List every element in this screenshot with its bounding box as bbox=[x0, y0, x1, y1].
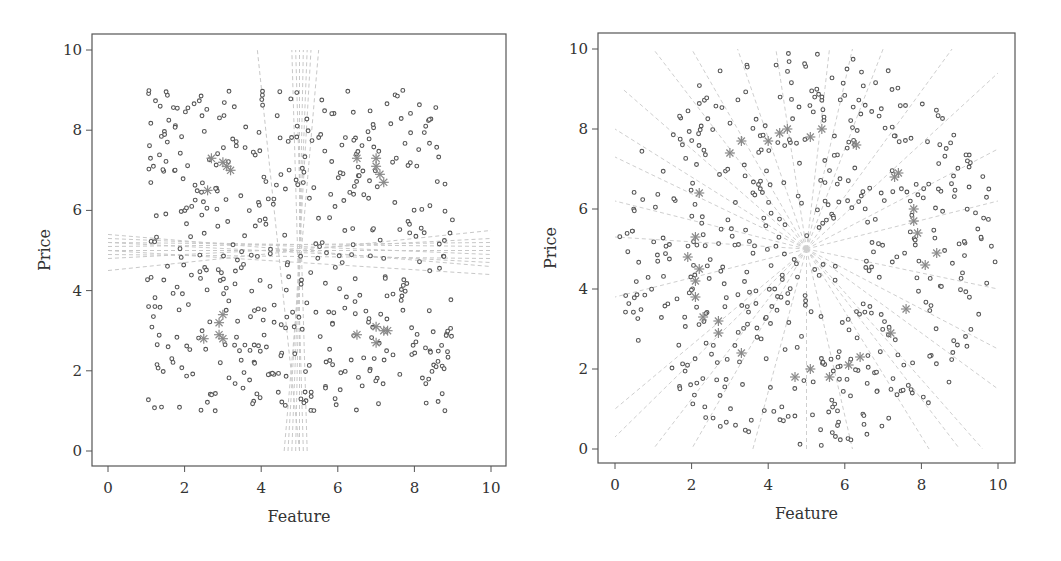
x-tick-label: 8 bbox=[917, 476, 927, 494]
y-tick-label: 10 bbox=[569, 40, 588, 58]
y-tick-label: 8 bbox=[578, 120, 588, 138]
y-tick-label: 4 bbox=[578, 280, 588, 298]
x-tick-label: 8 bbox=[410, 479, 420, 497]
y-tick-label: 10 bbox=[63, 41, 82, 59]
scatter-panel-left: 02468100246810FeaturePrice bbox=[0, 0, 530, 561]
dashed-fit-lines bbox=[615, 49, 998, 449]
y-tick-label: 4 bbox=[72, 282, 82, 300]
x-tick-label: 4 bbox=[763, 476, 773, 494]
y-axis-title: Price bbox=[541, 227, 560, 269]
x-tick-label: 4 bbox=[256, 479, 266, 497]
x-tick-label: 2 bbox=[180, 479, 190, 497]
x-tick-label: 0 bbox=[610, 476, 620, 494]
plot-area bbox=[615, 49, 998, 449]
x-tick-label: 2 bbox=[687, 476, 697, 494]
y-axis: 0246810 bbox=[63, 41, 92, 460]
y-tick-label: 0 bbox=[72, 442, 82, 460]
y-tick-label: 6 bbox=[72, 201, 82, 219]
x-axis: 0246810 bbox=[610, 463, 1007, 494]
y-tick-label: 0 bbox=[578, 440, 588, 458]
x-tick-label: 10 bbox=[988, 476, 1007, 494]
x-tick-label: 0 bbox=[103, 479, 113, 497]
x-tick-label: 6 bbox=[333, 479, 343, 497]
scatter-panel-right: 02468100246810FeaturePrice bbox=[530, 0, 1061, 561]
dashed-fit-lines bbox=[108, 50, 491, 451]
scatter-chart-right: 02468100246810FeaturePrice bbox=[530, 0, 1061, 561]
x-axis-title: Feature bbox=[267, 507, 330, 526]
y-tick-label: 6 bbox=[578, 200, 588, 218]
y-axis: 0246810 bbox=[569, 40, 598, 458]
scatter-chart-left: 02468100246810FeaturePrice bbox=[0, 0, 530, 561]
y-axis-title: Price bbox=[35, 229, 54, 271]
y-tick-label: 8 bbox=[72, 121, 82, 139]
x-tick-label: 10 bbox=[481, 479, 500, 497]
plot-area bbox=[108, 50, 491, 451]
x-axis-title: Feature bbox=[775, 504, 838, 523]
y-tick-label: 2 bbox=[72, 362, 82, 380]
x-tick-label: 6 bbox=[840, 476, 850, 494]
x-axis: 0246810 bbox=[103, 466, 500, 497]
y-tick-label: 2 bbox=[578, 360, 588, 378]
